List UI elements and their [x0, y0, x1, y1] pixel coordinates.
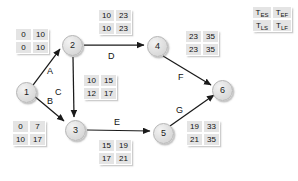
time-box-legend: TES TEF TLS TLF [252, 6, 292, 32]
tef-cell: 23 [115, 9, 132, 22]
time-box-d: 10 23 10 23 [98, 9, 132, 35]
tef-cell: 35 [202, 30, 219, 43]
legend-tes-cell: TES [252, 6, 272, 19]
legend-tef-base: T [276, 8, 281, 17]
table-row: 23 35 [185, 30, 219, 43]
tes-cell: 19 [186, 120, 203, 133]
tef-cell: 19 [115, 139, 132, 152]
time-box-e: 15 19 17 21 [98, 139, 132, 165]
tls-cell: 12 [83, 87, 100, 100]
legend-tef-sub: EF [281, 12, 289, 18]
edge-label-b: B [47, 96, 53, 106]
table-row: 10 15 [83, 74, 117, 87]
tls-cell: 23 [185, 43, 202, 56]
table-row: 21 35 [186, 133, 220, 146]
legend-tlf-cell: TLF [272, 19, 292, 32]
tes-cell: 0 [15, 28, 32, 41]
time-box-a: 0 10 0 10 [15, 28, 49, 54]
tlf-cell: 10 [32, 41, 49, 54]
legend-tls-sub: LS [261, 25, 268, 31]
tlf-cell: 35 [203, 133, 220, 146]
table-row: 19 33 [186, 120, 220, 133]
tlf-cell: 21 [115, 152, 132, 165]
table-row: 0 10 [15, 41, 49, 54]
table-row: 12 17 [83, 87, 117, 100]
legend-tes-sub: ES [260, 12, 268, 18]
node-2[interactable]: 2 [62, 35, 83, 56]
network-diagram-canvas: 1 2 3 4 5 6 A B C D E F G 0 10 0 10 0 7 … [0, 0, 298, 181]
table-row: TES TEF [252, 6, 292, 19]
table-row: 15 19 [98, 139, 132, 152]
edge-label-a: A [47, 66, 53, 76]
tef-cell: 33 [203, 120, 220, 133]
table-row: 10 23 [98, 22, 132, 35]
time-box-b: 0 7 10 17 [12, 120, 46, 146]
tes-cell: 0 [12, 120, 29, 133]
table-row: TLS TLF [252, 19, 292, 32]
tls-cell: 10 [98, 22, 115, 35]
legend-tlf-sub: LF [281, 25, 288, 31]
edge-c-2-to-3 [73, 57, 74, 117]
time-box-f: 23 35 23 35 [185, 30, 219, 56]
table-row: 10 17 [12, 133, 46, 146]
tef-cell: 10 [32, 28, 49, 41]
tlf-cell: 35 [202, 43, 219, 56]
tls-cell: 0 [15, 41, 32, 54]
time-box-g: 19 33 21 35 [186, 120, 220, 146]
tls-cell: 21 [186, 133, 203, 146]
edge-label-f: F [178, 72, 184, 82]
tes-cell: 10 [83, 74, 100, 87]
edge-e-3-to-5 [87, 130, 150, 131]
edge-label-e: E [114, 117, 120, 127]
node-3[interactable]: 3 [65, 120, 86, 141]
tes-cell: 23 [185, 30, 202, 43]
node-5[interactable]: 5 [153, 123, 174, 144]
tlf-cell: 17 [29, 133, 46, 146]
tls-cell: 10 [12, 133, 29, 146]
edge-label-d: D [108, 51, 115, 61]
table-row: 0 10 [15, 28, 49, 41]
time-box-c: 10 15 12 17 [83, 74, 117, 100]
edge-f-4-to-6 [163, 56, 211, 85]
node-4[interactable]: 4 [147, 36, 168, 57]
tes-cell: 10 [98, 9, 115, 22]
tef-cell: 15 [100, 74, 117, 87]
legend-tls-cell: TLS [252, 19, 272, 32]
edge-label-g: G [176, 105, 183, 115]
tlf-cell: 17 [100, 87, 117, 100]
node-1[interactable]: 1 [16, 82, 37, 103]
tls-cell: 17 [98, 152, 115, 165]
table-row: 23 35 [185, 43, 219, 56]
edge-label-c: C [55, 87, 62, 97]
tlf-cell: 23 [115, 22, 132, 35]
legend-tef-cell: TEF [272, 6, 292, 19]
tes-cell: 15 [98, 139, 115, 152]
table-row: 17 21 [98, 152, 132, 165]
table-row: 10 23 [98, 9, 132, 22]
tef-cell: 7 [29, 120, 46, 133]
table-row: 0 7 [12, 120, 46, 133]
node-6[interactable]: 6 [212, 80, 233, 101]
